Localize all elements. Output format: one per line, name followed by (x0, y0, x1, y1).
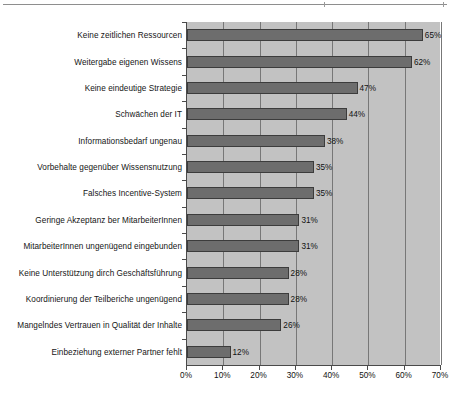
category-label: Informationsbedarf ungenau (78, 136, 182, 145)
x-axis-label: 10% (214, 371, 230, 380)
y-axis-tick (182, 75, 186, 76)
y-axis-tick (182, 180, 186, 181)
bar-container: 35% (187, 161, 440, 173)
category-label: Vorbehalte gegenüber Wissensnutzung (37, 163, 182, 172)
bar-row: Mangelndes Vertrauen in Qualität der Inh… (0, 312, 450, 338)
bar-value-label: 26% (281, 321, 299, 330)
y-axis-tick (182, 207, 186, 208)
bar (187, 319, 281, 331)
bar-row: MitarbeiterInnen ungenügend eingebunden3… (0, 233, 450, 259)
category-label: Keine eindeutige Strategie (85, 83, 182, 92)
x-axis-label: 70% (432, 371, 448, 380)
bar (187, 29, 423, 41)
category-label: Schwächen der IT (115, 110, 182, 119)
x-axis-tick-50 (367, 366, 368, 370)
x-axis-label: 30% (287, 371, 303, 380)
category-label: Einbeziehung externer Partner fehlt (51, 347, 182, 356)
y-axis-tick (182, 286, 186, 287)
x-axis-label: 40% (323, 371, 339, 380)
bar-container: 26% (187, 319, 440, 331)
x-axis-tick-30 (295, 366, 296, 370)
page-top-rule-tick-right (443, 2, 444, 7)
bar-container: 47% (187, 82, 440, 94)
x-axis-tick-10 (222, 366, 223, 370)
bar-container: 44% (187, 108, 440, 120)
bar-container: 28% (187, 267, 440, 279)
bar-row: Keine Unterstützung dirch Geschäftsführu… (0, 259, 450, 285)
bar (187, 214, 299, 226)
x-axis-tick-20 (259, 366, 260, 370)
bar-value-label: 35% (314, 163, 332, 172)
y-axis-tick (182, 259, 186, 260)
y-axis-tick (182, 128, 186, 129)
bar-value-label: 31% (299, 242, 317, 251)
bar-row: Vorbehalte gegenüber Wissensnutzung35% (0, 154, 450, 180)
bar-row: Falsches Incentive-System35% (0, 180, 450, 206)
horizontal-bar-chart: Keine zeitlichen Ressourcen65%Weitergabe… (0, 18, 450, 386)
y-axis-tick (182, 22, 186, 23)
bar-row: Keine eindeutige Strategie47% (0, 75, 450, 101)
category-label: Koordinierung der Teilberiche ungenügend (26, 295, 182, 304)
category-label: Keine zeitlichen Ressourcen (77, 31, 182, 40)
bar-value-label: 62% (412, 57, 430, 66)
bar-container: 35% (187, 187, 440, 199)
bar (187, 56, 412, 68)
bar (187, 267, 289, 279)
category-label: Falsches Incentive-System (83, 189, 182, 198)
x-axis-label: 50% (359, 371, 375, 380)
bar-row: Einbeziehung externer Partner fehlt12% (0, 339, 450, 365)
x-axis-label: 0% (180, 371, 192, 380)
bar-container: 65% (187, 29, 440, 41)
bar (187, 187, 314, 199)
bar (187, 293, 289, 305)
category-label: MitarbeiterInnen ungenügend eingebunden (23, 242, 182, 251)
bar-value-label: 28% (289, 268, 307, 277)
bar-container: 31% (187, 214, 440, 226)
bar-value-label: 44% (347, 110, 365, 119)
y-axis-tick (182, 48, 186, 49)
bar (187, 346, 231, 358)
bar-row: Informationsbedarf ungenau38% (0, 128, 450, 154)
bar-rows: Keine zeitlichen Ressourcen65%Weitergabe… (0, 22, 450, 365)
bar (187, 240, 299, 252)
bar-value-label: 65% (423, 31, 441, 40)
bar-row: Geringe Akzeptanz ber MitarbeiterInnen31… (0, 207, 450, 233)
bar (187, 82, 358, 94)
y-axis-tick (182, 312, 186, 313)
x-axis: 0%10%20%30%40%50%60%70% (0, 366, 450, 386)
y-axis-tick (182, 154, 186, 155)
bar-value-label: 28% (289, 295, 307, 304)
x-axis-tick-0 (186, 366, 187, 370)
bar-row: Koordinierung der Teilberiche ungenügend… (0, 286, 450, 312)
bar (187, 108, 347, 120)
x-axis-label: 60% (396, 371, 412, 380)
bar-row: Weitergabe eigenen Wissens62% (0, 48, 450, 74)
chart-page: Keine zeitlichen Ressourcen65%Weitergabe… (0, 0, 450, 401)
bar (187, 161, 314, 173)
bar-value-label: 38% (325, 136, 343, 145)
bar (187, 135, 325, 147)
bar-value-label: 31% (299, 215, 317, 224)
y-axis-tick (182, 339, 186, 340)
x-axis-tick-70 (440, 366, 441, 370)
bar-value-label: 47% (358, 83, 376, 92)
x-axis-label: 20% (250, 371, 266, 380)
bar-container: 28% (187, 293, 440, 305)
x-axis-tick-60 (404, 366, 405, 370)
bar-container: 38% (187, 135, 440, 147)
bar-container: 62% (187, 56, 440, 68)
category-label: Weitergabe eigenen Wissens (74, 57, 182, 66)
category-label: Mangelndes Vertrauen in Qualität der Inh… (17, 321, 182, 330)
page-top-rule (3, 4, 447, 5)
bar-container: 12% (187, 346, 440, 358)
y-axis-tick (182, 101, 186, 102)
category-label: Geringe Akzeptanz ber MitarbeiterInnen (35, 215, 182, 224)
bar-value-label: 35% (314, 189, 332, 198)
bar-row: Schwächen der IT44% (0, 101, 450, 127)
bar-value-label: 12% (231, 347, 249, 356)
y-axis-tick (182, 233, 186, 234)
bar-row: Keine zeitlichen Ressourcen65% (0, 22, 450, 48)
category-label: Keine Unterstützung dirch Geschäftsführu… (19, 268, 182, 277)
page-top-rule-tick-left (324, 2, 325, 7)
x-axis-tick-40 (331, 366, 332, 370)
